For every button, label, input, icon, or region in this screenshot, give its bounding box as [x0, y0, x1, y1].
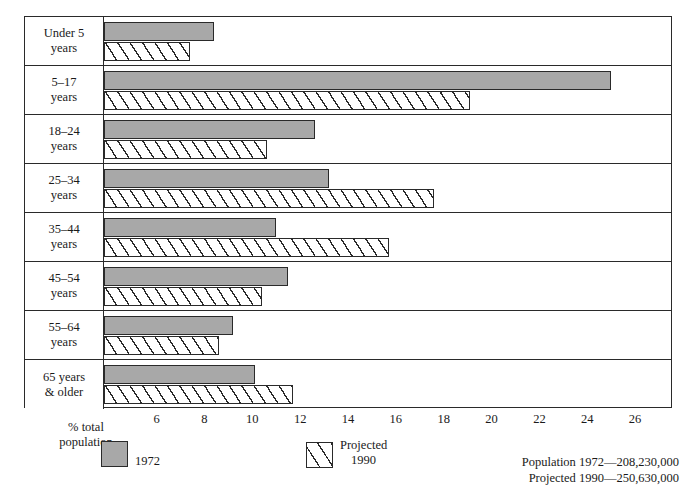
legend-label-1972: 1972: [135, 454, 160, 469]
bar-1972: [104, 365, 255, 384]
legend-label-projected-1990: Projected 1990: [340, 438, 387, 468]
legend-entry-1972: 1972: [101, 441, 160, 467]
bar-projected-1990: [104, 42, 190, 61]
x-tick-14: 14: [342, 412, 355, 427]
x-tick-12: 12: [294, 412, 307, 427]
x-tick-26: 26: [629, 412, 642, 427]
age-group-label-line1: 45–54: [48, 271, 79, 286]
x-tick-18: 18: [437, 412, 450, 427]
bar-pair: [104, 311, 671, 359]
bar-pair: [104, 360, 671, 409]
age-group-label: 65 years& older: [25, 360, 104, 409]
age-group-label-line2: years: [51, 139, 77, 154]
bar-1972: [104, 218, 276, 237]
bar-pair: [104, 164, 671, 212]
chart-row: 45–54years: [25, 262, 671, 311]
x-tick-24: 24: [581, 412, 594, 427]
age-group-label-line2: years: [51, 237, 77, 252]
chart-row: 5–17years: [25, 66, 671, 115]
x-tick-10: 10: [246, 412, 259, 427]
bar-1972: [104, 22, 214, 41]
population-totals-note: Population 1972—208,230,000 Projected 19…: [522, 455, 679, 486]
chart-row: 55–64years: [25, 311, 671, 360]
chart-row: 35–44years: [25, 213, 671, 262]
bar-pair: [104, 66, 671, 114]
bar-pair: [104, 17, 671, 65]
bar-projected-1990: [104, 238, 389, 257]
age-group-label: 5–17years: [25, 66, 104, 114]
bar-projected-1990: [104, 140, 267, 159]
bar-pair: [104, 213, 671, 261]
bar-1972: [104, 267, 288, 286]
bar-1972: [104, 120, 315, 139]
age-group-label-line1: 55–64: [48, 320, 79, 335]
population-1972-total: Population 1972—208,230,000: [522, 455, 679, 471]
age-group-label-line2: years: [51, 188, 77, 203]
legend-label-projected-1990-line1: Projected: [340, 438, 387, 452]
age-group-label-line2: years: [51, 286, 77, 301]
bar-chart-plot-area: Under 5years5–17years18–24years25–34year…: [24, 16, 672, 408]
x-axis-label-line1: % total: [34, 420, 138, 435]
age-group-label-line1: 25–34: [48, 173, 79, 188]
legend-swatch-projected-1990-icon: [306, 442, 333, 468]
x-tick-22: 22: [533, 412, 546, 427]
age-group-label-line1: 35–44: [48, 222, 79, 237]
age-group-label: 18–24years: [25, 115, 104, 163]
bar-1972: [104, 71, 611, 90]
age-group-label-line2: years: [51, 90, 77, 105]
x-tick-8: 8: [201, 412, 207, 427]
projected-1990-total: Projected 1990—250,630,000: [522, 471, 679, 487]
age-group-label: 45–54years: [25, 262, 104, 310]
bar-projected-1990: [104, 287, 262, 306]
bar-1972: [104, 169, 329, 188]
age-group-label-line2: years: [51, 335, 77, 350]
x-tick-20: 20: [485, 412, 498, 427]
bar-pair: [104, 115, 671, 163]
bar-projected-1990: [104, 385, 293, 404]
age-group-label-line1: 18–24: [48, 124, 79, 139]
age-group-label-line1: Under 5: [44, 26, 85, 41]
age-group-label: 35–44years: [25, 213, 104, 261]
age-group-label-line2: years: [51, 41, 77, 56]
bar-projected-1990: [104, 336, 219, 355]
age-group-label: 25–34years: [25, 164, 104, 212]
bar-1972: [104, 316, 233, 335]
bar-pair: [104, 262, 671, 310]
age-group-label-line1: 65 years: [43, 370, 85, 385]
age-group-label: Under 5years: [25, 17, 104, 65]
x-tick-16: 16: [390, 412, 403, 427]
legend-label-projected-1990-line2: 1990: [351, 453, 376, 467]
age-group-label: 55–64years: [25, 311, 104, 359]
chart-row: Under 5years: [25, 17, 671, 66]
bar-projected-1990: [104, 91, 470, 110]
x-tick-6: 6: [154, 412, 160, 427]
age-group-label-line1: 5–17: [52, 75, 77, 90]
legend-entry-projected-1990: Projected 1990: [306, 441, 387, 468]
chart-row: 25–34years: [25, 164, 671, 213]
bar-projected-1990: [104, 189, 434, 208]
legend-swatch-1972-icon: [101, 441, 128, 467]
chart-row: 65 years& older: [25, 360, 671, 409]
chart-row: 18–24years: [25, 115, 671, 164]
age-group-label-line2: & older: [45, 385, 84, 400]
